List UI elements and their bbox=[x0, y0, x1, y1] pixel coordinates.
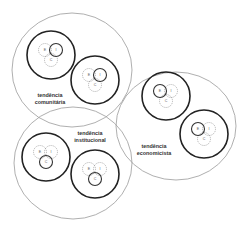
tendency-label-economicista-line2: economicista bbox=[137, 150, 172, 156]
group-economicista-1: ICE bbox=[142, 72, 190, 120]
tendency-label-comunitaria-line1: tendência bbox=[37, 92, 63, 98]
tendency-circle-comunitaria bbox=[12, 13, 132, 127]
venn-letter-c: C bbox=[94, 177, 97, 181]
group-boundary-circle bbox=[22, 133, 70, 181]
diagram-canvas: ECIECIEICEICICEICE tendênciacomunitáriat… bbox=[0, 0, 246, 229]
group-institucional-2: EIC bbox=[71, 150, 119, 198]
tendency-circle-economicista bbox=[116, 72, 236, 180]
venn-letter-e: E bbox=[44, 48, 47, 52]
venn-letter-e: E bbox=[39, 150, 42, 154]
venn-letter-c: C bbox=[165, 99, 168, 103]
tendency-label-institucional-line1: tendência bbox=[77, 130, 103, 136]
tendencies-venn-diagram: ECIECIEICEICICEICE tendênciacomunitáriat… bbox=[0, 0, 246, 229]
venn-letter-i: I bbox=[100, 167, 101, 171]
venn-letter-c: C bbox=[94, 83, 97, 87]
tendency-label-comunitaria-line2: comunitária bbox=[35, 99, 67, 105]
venn-letter-i: I bbox=[171, 89, 172, 93]
group-circles-layer: ECIECIEICEICICEICE bbox=[22, 31, 228, 198]
venn-letter-c: C bbox=[45, 160, 48, 164]
outer-circles-layer bbox=[12, 13, 236, 219]
venn-letter-e: E bbox=[88, 73, 91, 77]
venn-letter-e: E bbox=[88, 167, 91, 171]
group-boundary-circle bbox=[71, 150, 119, 198]
venn-letter-c: C bbox=[203, 137, 206, 141]
venn-letter-c: C bbox=[50, 58, 53, 62]
tendency-label-institucional-line2: institucional bbox=[74, 137, 106, 143]
group-boundary-circle bbox=[142, 72, 190, 120]
venn-letter-e: E bbox=[159, 89, 162, 93]
venn-letter-i: I bbox=[56, 48, 57, 52]
group-boundary-circle bbox=[71, 56, 119, 104]
group-boundary-circle bbox=[27, 31, 75, 79]
venn-letter-i: I bbox=[51, 150, 52, 154]
group-boundary-circle bbox=[180, 110, 228, 158]
group-comunitaria-2: ECI bbox=[71, 56, 119, 104]
venn-letter-i: I bbox=[100, 73, 101, 77]
venn-letter-i: I bbox=[209, 127, 210, 131]
tendency-label-economicista-line1: tendência bbox=[141, 143, 167, 149]
group-institucional-1: EIC bbox=[22, 133, 70, 181]
venn-letter-e: E bbox=[197, 127, 200, 131]
group-economicista-2: ICE bbox=[180, 110, 228, 158]
group-comunitaria-1: ECI bbox=[27, 31, 75, 79]
